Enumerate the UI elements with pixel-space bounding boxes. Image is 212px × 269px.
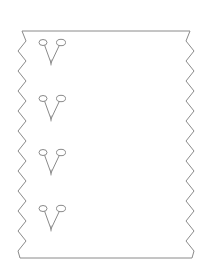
glyph-1-left-loop bbox=[39, 40, 47, 46]
glyph-1-right-loop bbox=[57, 39, 66, 45]
drawing-canvas: Sawtooth-edged trapezoid with four paire… bbox=[0, 0, 212, 269]
glyph-3-right-loop bbox=[57, 149, 66, 155]
glyph-2-right-loop bbox=[57, 95, 66, 101]
glyph-4-right-loop bbox=[57, 205, 66, 211]
glyph-3-left-loop bbox=[39, 150, 47, 156]
glyph-4-left-loop bbox=[39, 206, 47, 212]
glyph-2-left-loop bbox=[39, 96, 47, 102]
line-drawing-figure: Sawtooth-edged trapezoid with four paire… bbox=[0, 0, 212, 269]
sawtooth-trapezoid-outline bbox=[18, 31, 194, 258]
